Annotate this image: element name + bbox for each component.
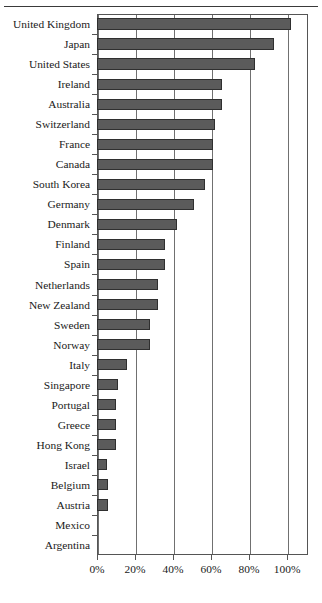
bar-row xyxy=(97,159,308,170)
bar-row xyxy=(97,399,308,410)
y-axis-tick xyxy=(92,54,97,55)
bar-row xyxy=(97,99,308,110)
bar-canada[interactable] xyxy=(97,159,213,170)
bar-south-korea[interactable] xyxy=(97,179,205,190)
y-axis-tick xyxy=(92,174,97,175)
x-axis-label-20pct: 20% xyxy=(125,562,146,576)
bar-belgium[interactable] xyxy=(97,479,108,490)
y-axis-label-ireland: Ireland xyxy=(0,78,90,90)
bar-norway[interactable] xyxy=(97,339,150,350)
y-axis-label-australia: Australia xyxy=(0,98,90,110)
x-axis-label-40pct: 40% xyxy=(163,562,184,576)
y-axis-label-argentina: Argentina xyxy=(0,539,90,551)
y-axis-tick xyxy=(92,415,97,416)
y-axis-label-sweden: Sweden xyxy=(0,319,90,331)
y-axis-tick xyxy=(92,315,97,316)
bar-row xyxy=(97,459,308,470)
bar-row xyxy=(97,439,308,450)
bar-france[interactable] xyxy=(97,139,213,150)
bar-row xyxy=(97,319,308,330)
y-axis-tick xyxy=(92,515,97,516)
bar-australia[interactable] xyxy=(97,99,222,110)
bar-row xyxy=(97,539,308,550)
y-axis-tick xyxy=(92,214,97,215)
bar-row xyxy=(97,219,308,230)
y-axis-tick xyxy=(92,475,97,476)
y-axis-label-portugal: Portugal xyxy=(0,399,90,411)
y-axis-tick xyxy=(92,154,97,155)
bar-singapore[interactable] xyxy=(97,379,118,390)
bar-sweden[interactable] xyxy=(97,319,150,330)
bar-row xyxy=(97,119,308,130)
bar-row xyxy=(97,379,308,390)
y-axis-label-italy: Italy xyxy=(0,359,90,371)
bar-row xyxy=(97,79,308,90)
bar-finland[interactable] xyxy=(97,239,165,250)
y-axis-label-greece: Greece xyxy=(0,419,90,431)
bar-austria[interactable] xyxy=(97,499,108,510)
y-axis-tick xyxy=(92,74,97,75)
y-axis-tick xyxy=(92,375,97,376)
bar-japan[interactable] xyxy=(97,38,274,49)
x-axis-label-100pct: 100% xyxy=(274,562,301,576)
bar-row xyxy=(97,58,308,69)
bar-switzerland[interactable] xyxy=(97,119,215,130)
x-axis-label-60pct: 60% xyxy=(201,562,222,576)
y-axis-tick xyxy=(92,335,97,336)
y-axis-tick xyxy=(92,455,97,456)
y-axis-label-united-kingdom: United Kingdom xyxy=(0,18,90,30)
x-axis-tick xyxy=(135,555,136,560)
bar-row xyxy=(97,38,308,49)
y-axis-ticks xyxy=(92,14,98,555)
bar-united-kingdom[interactable] xyxy=(97,18,291,29)
bar-united-states[interactable] xyxy=(97,58,255,69)
bar-row xyxy=(97,279,308,290)
y-axis-label-belgium: Belgium xyxy=(0,479,90,491)
bar-portugal[interactable] xyxy=(97,399,116,410)
y-axis-label-japan: Japan xyxy=(0,38,90,50)
y-axis-tick xyxy=(92,234,97,235)
y-axis-tick xyxy=(92,134,97,135)
y-axis-tick xyxy=(92,395,97,396)
y-axis-tick xyxy=(92,254,97,255)
x-axis-tick xyxy=(249,555,250,560)
y-axis-label-mexico: Mexico xyxy=(0,519,90,531)
y-axis-label-germany: Germany xyxy=(0,198,90,210)
y-axis-labels: United KingdomJapanUnited StatesIrelandA… xyxy=(0,14,90,555)
bar-row xyxy=(97,139,308,150)
bar-row xyxy=(97,419,308,430)
x-axis-label-0pct: 0% xyxy=(89,562,104,576)
x-axis-tick xyxy=(287,555,288,560)
bar-denmark[interactable] xyxy=(97,219,177,230)
top-divider-rule xyxy=(4,6,318,7)
y-axis-tick xyxy=(92,535,97,536)
bar-new-zealand[interactable] xyxy=(97,299,158,310)
y-axis-label-israel: Israel xyxy=(0,459,90,471)
bar-row xyxy=(97,299,308,310)
bar-hong-kong[interactable] xyxy=(97,439,116,450)
x-axis-label-80pct: 80% xyxy=(239,562,260,576)
bar-spain[interactable] xyxy=(97,259,165,270)
y-axis-tick xyxy=(92,274,97,275)
y-axis-label-hong-kong: Hong Kong xyxy=(0,439,90,451)
bar-israel[interactable] xyxy=(97,459,107,470)
bar-italy[interactable] xyxy=(97,359,127,370)
bar-germany[interactable] xyxy=(97,199,194,210)
y-axis-tick xyxy=(92,435,97,436)
bar-row xyxy=(97,239,308,250)
x-axis-tick xyxy=(173,555,174,560)
bar-greece[interactable] xyxy=(97,419,116,430)
y-axis-label-austria: Austria xyxy=(0,499,90,511)
y-axis-label-netherlands: Netherlands xyxy=(0,279,90,291)
bar-row xyxy=(97,359,308,370)
bar-netherlands[interactable] xyxy=(97,279,158,290)
y-axis-label-denmark: Denmark xyxy=(0,218,90,230)
x-axis-tick xyxy=(97,555,98,560)
y-axis-label-south-korea: South Korea xyxy=(0,178,90,190)
bar-row xyxy=(97,339,308,350)
y-axis-tick xyxy=(92,114,97,115)
bar-ireland[interactable] xyxy=(97,79,222,90)
bar-chart: United KingdomJapanUnited StatesIrelandA… xyxy=(0,0,322,603)
y-axis-label-canada: Canada xyxy=(0,158,90,170)
bar-row xyxy=(97,519,308,530)
